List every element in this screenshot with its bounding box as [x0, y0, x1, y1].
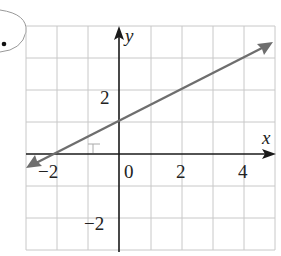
- y-tick-neg2: −2: [84, 213, 104, 234]
- problem-bullet: [2, 42, 7, 47]
- origin-label: 0: [124, 161, 134, 182]
- axes: [26, 34, 268, 252]
- y-axis-label: y: [123, 25, 134, 46]
- x-tick-2: 2: [176, 161, 186, 182]
- x-tick-4: 4: [238, 161, 248, 182]
- plotted-line: [34, 47, 264, 164]
- coordinate-plane: y x −2 0 2 4 2 −2: [0, 0, 281, 256]
- x-axis-label: x: [261, 127, 271, 148]
- x-tick-neg2: −2: [38, 161, 58, 182]
- right-angle-mark: [88, 144, 100, 153]
- y-tick-2: 2: [100, 87, 110, 108]
